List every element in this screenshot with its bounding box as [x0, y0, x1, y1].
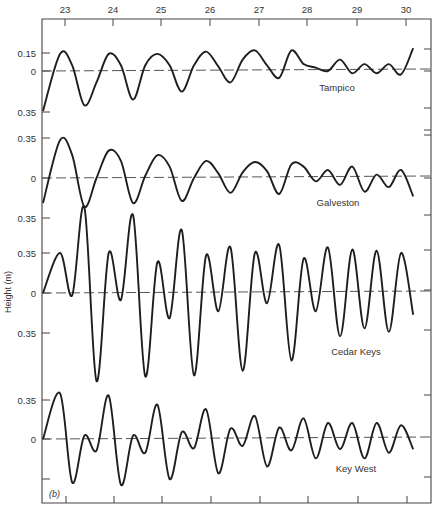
y-axis-label: Height (m)	[3, 271, 13, 313]
panel-key-west: 0.350Key West	[18, 393, 432, 486]
panel-label: (b)	[49, 489, 60, 499]
y-tick-label: 0.15	[18, 48, 37, 59]
y-tick-label: 0.35	[18, 107, 37, 118]
x-tick-label: 24	[108, 4, 119, 15]
y-tick-label: 0.35	[18, 328, 37, 339]
y-tick-label: 0.35	[18, 213, 37, 224]
y-tick-label: 0.35	[18, 133, 37, 144]
station-label: Cedar Keys	[331, 346, 381, 357]
panel-tampico: 0.1500.35Tampico	[18, 48, 432, 131]
x-tick-label: 29	[352, 4, 363, 15]
panel-galveston: 0.3500.35Galveston	[18, 133, 432, 224]
tide-chart: 2324252627282930 0.1500.35Tampico0.3500.…	[0, 0, 440, 512]
station-label: Tampico	[319, 82, 354, 93]
station-label: Galveston	[317, 197, 360, 208]
x-tick-label: 25	[156, 4, 167, 15]
y-tick-label: 0.35	[18, 395, 37, 406]
zero-reference-line	[42, 291, 431, 293]
x-tick-label: 28	[302, 4, 313, 15]
x-axis-bottom-ticks	[66, 496, 407, 503]
tide-curve	[43, 48, 413, 111]
y-tick-label: 0	[31, 288, 36, 299]
x-tick-label: 26	[205, 4, 216, 15]
x-tick-label: 30	[401, 4, 412, 15]
y-tick-label: 0.35	[18, 248, 37, 259]
x-tick-label: 23	[60, 4, 71, 15]
y-tick-label: 0	[31, 66, 36, 77]
y-tick-label: 0	[31, 173, 36, 184]
y-tick-label: 0	[31, 434, 36, 445]
station-panels: 0.1500.35Tampico0.3500.35Galveston0.3500…	[18, 48, 432, 486]
x-axis-top: 2324252627282930	[60, 4, 412, 26]
station-label: Key West	[336, 463, 377, 474]
panel-cedar-keys: 0.3500.35Cedar Keys	[18, 206, 432, 382]
x-tick-label: 27	[254, 4, 265, 15]
